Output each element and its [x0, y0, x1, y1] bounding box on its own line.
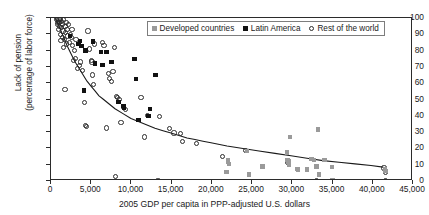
data-point	[84, 124, 89, 129]
data-point	[93, 61, 97, 65]
data-point	[132, 57, 136, 61]
x-tick-mark	[251, 180, 252, 184]
y-axis-title-line2: (percentage of labor force)	[24, 0, 35, 133]
data-point	[142, 134, 147, 139]
data-point	[109, 79, 114, 84]
x-tick-mark	[130, 180, 131, 184]
data-point	[109, 60, 113, 64]
x-tick-label: 30,000	[279, 185, 305, 193]
data-point	[78, 39, 82, 43]
data-point	[245, 149, 249, 153]
x-tick-mark	[291, 180, 292, 184]
data-point	[316, 127, 320, 131]
x-axis-title: 2005 GDP per capita in PPP-adjusted U.S.…	[0, 199, 429, 209]
data-point	[85, 28, 90, 33]
x-tick-label: 10,000	[118, 185, 144, 193]
data-point	[148, 107, 152, 111]
plot-area-frame	[50, 17, 412, 180]
data-point	[224, 170, 228, 174]
data-point	[312, 158, 316, 162]
data-point	[322, 158, 326, 162]
data-point	[112, 45, 117, 50]
data-point	[146, 114, 150, 118]
data-point	[104, 125, 109, 130]
data-point	[136, 118, 140, 122]
legend-label-developed-countries: Developed countries	[160, 24, 235, 33]
data-point	[317, 172, 321, 176]
x-tick-mark	[90, 180, 91, 184]
x-tick-label: 5,000	[80, 185, 101, 193]
data-point	[80, 68, 85, 73]
data-point	[247, 172, 251, 176]
x-tick-label: 40,000	[359, 185, 385, 193]
data-point	[153, 73, 157, 77]
legend-label-latin-america: Latin America	[251, 24, 301, 33]
data-point	[100, 63, 104, 67]
x-tick-mark	[332, 180, 333, 184]
data-point	[285, 150, 289, 154]
data-point	[104, 50, 108, 54]
x-tick-label: 20,000	[198, 185, 224, 193]
data-point	[83, 48, 87, 52]
x-tick-mark	[412, 180, 413, 184]
data-point	[171, 130, 176, 135]
x-tick-mark	[211, 180, 212, 184]
x-tick-mark	[372, 180, 373, 184]
data-point	[330, 165, 334, 169]
black-square-icon	[243, 26, 248, 31]
data-point	[116, 100, 120, 104]
chart-legend: Developed countries Latin America Rest o…	[147, 21, 385, 36]
data-point	[78, 59, 83, 64]
y-axis-title-line1: Lack of pension	[14, 0, 25, 133]
data-point	[113, 174, 118, 179]
data-point	[260, 164, 264, 168]
y-axis-title: Lack of pension (percentage of labor for…	[14, 0, 35, 133]
x-tick-label: 35,000	[319, 185, 345, 193]
x-tick-label: 15,000	[158, 185, 184, 193]
x-tick-label: 25,000	[238, 185, 264, 193]
legend-item-latin-america: Latin America	[243, 24, 300, 33]
data-point	[288, 135, 292, 139]
data-point	[287, 163, 291, 167]
x-tick-label: 45,000	[399, 185, 425, 193]
data-point	[68, 34, 72, 38]
plot-area	[51, 18, 411, 179]
data-point	[79, 44, 83, 48]
data-point	[82, 88, 86, 92]
data-point	[118, 120, 123, 125]
legend-label-rest-of-the-world: Rest of the world	[317, 24, 378, 33]
open-circle-icon	[309, 26, 314, 31]
data-point	[69, 27, 74, 32]
legend-item-rest-of-the-world: Rest of the world	[309, 24, 378, 33]
data-point	[101, 43, 106, 48]
data-point	[134, 77, 138, 81]
data-point	[314, 164, 318, 168]
data-point	[99, 50, 103, 54]
data-point	[296, 167, 300, 171]
data-point	[220, 154, 225, 159]
data-point	[62, 87, 67, 92]
data-point	[330, 178, 334, 179]
x-tick-label: 0	[48, 185, 53, 193]
x-tick-mark	[50, 180, 51, 184]
data-point	[314, 178, 319, 179]
legend-item-developed-countries: Developed countries	[152, 24, 234, 33]
data-point	[227, 162, 231, 166]
data-point	[305, 167, 309, 171]
pension-gdp-scatter-figure: Lack of pension (percentage of labor for…	[0, 0, 429, 215]
data-point	[91, 39, 95, 43]
data-point	[110, 69, 115, 74]
data-point	[122, 105, 126, 109]
x-tick-mark	[171, 180, 172, 184]
data-point	[155, 178, 160, 179]
data-point	[383, 169, 387, 173]
gray-square-icon	[152, 26, 157, 31]
